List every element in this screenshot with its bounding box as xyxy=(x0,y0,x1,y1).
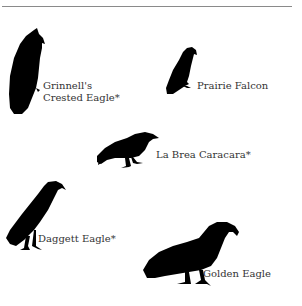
crested-eagle-silhouette-icon xyxy=(6,28,46,116)
label-line-1: Grinnell's xyxy=(43,80,120,92)
caracara-silhouette-icon xyxy=(95,130,161,172)
bird-silhouette-figure: Grinnell's Crested Eagle* Prairie Falcon… xyxy=(0,0,302,306)
label-golden-eagle: Golden Eagle xyxy=(203,268,271,280)
top-divider xyxy=(2,6,292,7)
label-grinnells-crested-eagle: Grinnell's Crested Eagle* xyxy=(43,80,120,104)
label-line-2: Crested Eagle* xyxy=(43,92,120,104)
falcon-silhouette-icon xyxy=(165,46,199,96)
label-prairie-falcon: Prairie Falcon xyxy=(197,80,268,92)
label-la-brea-caracara: La Brea Caracara* xyxy=(156,149,251,161)
label-daggett-eagle: Daggett Eagle* xyxy=(38,233,116,245)
